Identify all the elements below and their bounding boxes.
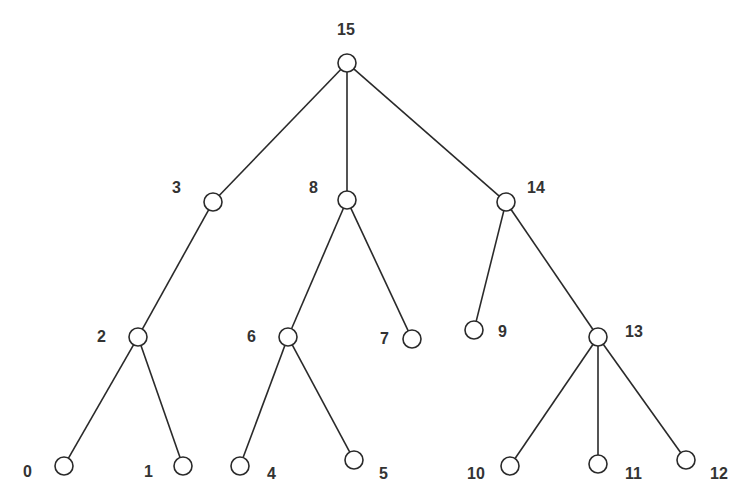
- edge-13-12: [603, 344, 681, 452]
- node-9: [465, 321, 483, 339]
- node-label-11: 11: [625, 466, 642, 482]
- node-label-1: 1: [144, 464, 153, 480]
- edge-14-9: [476, 211, 504, 322]
- node-15: [338, 54, 356, 72]
- tree-graphics: [0, 0, 754, 504]
- node-13: [589, 328, 607, 346]
- node-6: [279, 328, 297, 346]
- node-7: [403, 330, 421, 348]
- node-1: [174, 457, 192, 475]
- node-3: [204, 193, 222, 211]
- edge-8-6: [292, 208, 344, 328]
- edge-6-5: [292, 345, 349, 452]
- node-11: [589, 455, 607, 473]
- edge-13-10: [515, 344, 593, 458]
- edge-6-4: [243, 345, 285, 457]
- edge-15-3: [219, 69, 341, 195]
- edges: [68, 69, 680, 459]
- node-0: [55, 457, 73, 475]
- node-label-9: 9: [498, 324, 507, 340]
- node-label-10: 10: [467, 466, 485, 482]
- node-label-8: 8: [309, 180, 318, 196]
- node-label-0: 0: [23, 464, 32, 480]
- node-12: [677, 451, 695, 469]
- edge-2-0: [68, 345, 133, 458]
- node-label-13: 13: [625, 324, 643, 340]
- node-label-5: 5: [379, 466, 388, 482]
- node-label-3: 3: [172, 180, 181, 196]
- node-5: [345, 451, 363, 469]
- edge-2-1: [141, 345, 180, 457]
- nodes: [55, 54, 695, 475]
- edge-14-13: [511, 209, 593, 329]
- node-8: [338, 191, 356, 209]
- node-label-6: 6: [247, 329, 256, 345]
- node-label-4: 4: [267, 466, 276, 482]
- node-10: [501, 457, 519, 475]
- node-label-7: 7: [380, 331, 389, 347]
- node-label-15: 15: [337, 22, 355, 38]
- edge-3-2: [142, 210, 208, 329]
- tree-diagram: 1538142679130145101112: [0, 0, 754, 504]
- node-label-14: 14: [527, 180, 545, 196]
- node-14: [497, 193, 515, 211]
- edge-8-7: [351, 208, 408, 331]
- node-2: [129, 328, 147, 346]
- node-label-2: 2: [97, 329, 106, 345]
- node-4: [231, 457, 249, 475]
- edge-15-14: [354, 69, 499, 196]
- node-label-12: 12: [710, 466, 728, 482]
